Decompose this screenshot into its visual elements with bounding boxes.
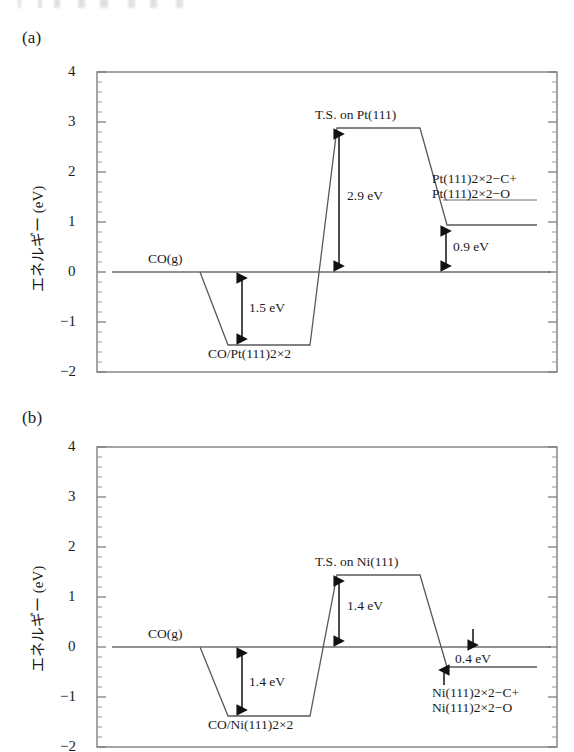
panel-a-ytick-m1: −1	[60, 313, 76, 330]
panel-b-ytick-1: 1	[68, 588, 76, 605]
panel-b-label-initial: CO(g)	[148, 626, 183, 642]
panel-a-label-initial: CO(g)	[148, 251, 183, 267]
panel-a-label-ts: T.S. on Pt(111)	[315, 107, 396, 123]
panel-b-value-barrier: 1.4 eV	[347, 598, 383, 614]
panel-a-label-final-line2: Pt(111)2×2−O	[432, 186, 510, 202]
panel-b-ytick-m2: −2	[60, 738, 76, 752]
panel-a-ytick-4: 4	[68, 63, 76, 80]
panel-a-value-final: 0.9 eV	[453, 239, 489, 255]
panel-a-ytick-1: 1	[68, 213, 76, 230]
panel-a-value-barrier: 2.9 eV	[347, 188, 383, 204]
panel-a-ytick-m2: −2	[60, 363, 76, 380]
panel-a-ytick-3: 3	[68, 113, 76, 130]
panel-b-ytick-m1: −1	[60, 688, 76, 705]
panel-b-label-final-line2: Ni(111)2×2−O	[432, 700, 512, 716]
panel-b-ytick-0: 0	[68, 638, 76, 655]
panel-b-ytick-2: 2	[68, 538, 76, 555]
panel-a-label-well: CO/Pt(111)2×2	[208, 346, 291, 362]
panel-b-ytick-3: 3	[68, 488, 76, 505]
energy-diagram-figure: (a) エネルギー (eV)	[0, 0, 574, 752]
panel-a-minor-ticks	[97, 82, 557, 362]
panel-b-value-final: 0.4 eV	[455, 651, 491, 667]
panel-b-ytick-4: 4	[68, 438, 76, 455]
panel-a-label-final-line1: Pt(111)2×2−C+	[432, 171, 517, 187]
panel-a-ytick-2: 2	[68, 163, 76, 180]
panel-b-label-well: CO/Ni(111)2×2	[208, 717, 293, 733]
panel-a-ytick-0: 0	[68, 263, 76, 280]
panel-a: (a) エネルギー (eV)	[0, 0, 574, 380]
panel-b-value-adsorption: 1.4 eV	[249, 674, 285, 690]
panel-b: (b) エネルギー (eV)	[0, 380, 574, 752]
panel-b-label-final-line1: Ni(111)2×2−C+	[432, 685, 519, 701]
panel-b-label-ts: T.S. on Ni(111)	[315, 554, 399, 570]
panel-a-value-adsorption: 1.5 eV	[249, 300, 285, 316]
